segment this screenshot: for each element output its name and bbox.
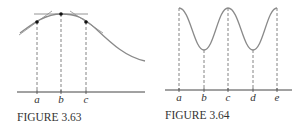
figure-caption: FIGURE 3.64: [165, 109, 230, 121]
figures-canvas: a b c FIGURE 3.63 a b c d e FIGURE 3.64: [0, 0, 307, 131]
figure-3-63: a b c FIGURE 3.63: [17, 11, 145, 123]
label-c: c: [84, 93, 89, 105]
point-b: [59, 12, 63, 16]
label-a: a: [176, 91, 182, 103]
curve: [20, 14, 145, 61]
label-c: c: [226, 91, 231, 103]
label-e: e: [275, 91, 280, 103]
label-b: b: [201, 91, 207, 103]
label-d: d: [250, 91, 256, 103]
figure-3-64: a b c d e FIGURE 3.64: [165, 8, 292, 121]
label-b: b: [58, 93, 64, 105]
point-c: [84, 20, 88, 24]
label-a: a: [34, 93, 40, 105]
point-a: [35, 20, 39, 24]
figure-caption: FIGURE 3.63: [17, 111, 82, 123]
